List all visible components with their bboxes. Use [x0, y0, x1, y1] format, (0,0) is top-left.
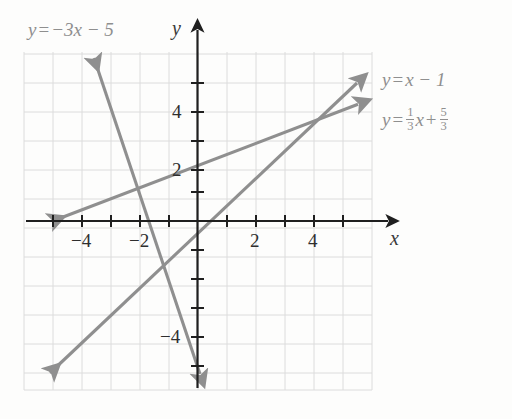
y-tick-label-pos4: 4: [172, 102, 182, 121]
line3-variable: x: [415, 109, 423, 130]
fraction-one-third-denominator: 3: [406, 120, 414, 133]
fraction-five-thirds-numerator: 5: [440, 106, 448, 120]
fraction-one-third-numerator: 1: [406, 106, 414, 120]
equation-label-line1: y=−3x − 5: [28, 20, 114, 39]
fraction-one-third: 13: [406, 106, 414, 133]
line1-equals: =: [36, 19, 51, 40]
x-axis-name: x: [390, 228, 399, 248]
fraction-five-thirds: 53: [440, 106, 448, 133]
fraction-five-thirds-denominator: 3: [440, 120, 448, 133]
x-tick-label-neg2: −2: [129, 231, 149, 250]
x-tick-label-pos2: 2: [250, 231, 260, 250]
line1-rhs: −3x − 5: [51, 19, 114, 40]
line2-equals: =: [390, 69, 405, 90]
y-tick-label-neg4: −4: [160, 327, 180, 346]
equation-label-line2: y=x − 1: [382, 70, 445, 89]
x-tick-label-pos4: 4: [308, 231, 318, 250]
line-one-third-x-plus-five-thirds: [52, 104, 358, 221]
line3-plus: +: [424, 109, 439, 130]
y-axis-name: y: [172, 18, 181, 38]
equation-label-line3: y=13x+53: [382, 106, 449, 133]
line-minus-three-x-minus-five: [94, 58, 200, 374]
coordinate-plane-svg: [0, 0, 512, 419]
line3-equals: =: [390, 109, 405, 130]
y-tick-label-pos2: 2: [172, 160, 182, 179]
graph-figure: y=−3x − 5 y=x − 1 y=13x+53 y x −4 −2 2 4…: [0, 0, 512, 419]
line2-rhs: x − 1: [405, 69, 445, 90]
x-tick-label-neg4: −4: [71, 231, 91, 250]
